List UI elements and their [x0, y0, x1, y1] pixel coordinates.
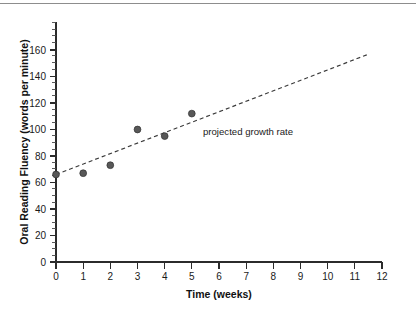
y-tick-label-120: 120 [29, 98, 46, 109]
scatter-plot: 0 20 40 60 80 100 120 140 160 0 1 [0, 0, 416, 313]
data-point [161, 133, 168, 140]
y-axis-minor-ticks [52, 23, 57, 256]
y-tick-label-0: 0 [40, 257, 46, 268]
data-point [80, 170, 87, 177]
data-point [188, 110, 195, 117]
axes-group [56, 22, 382, 262]
x-tick-label-5: 5 [189, 271, 195, 282]
y-axis-title: Oral Reading Fluency (words per minute) [18, 39, 30, 244]
x-tick-label-1: 1 [80, 271, 86, 282]
data-point [134, 126, 141, 133]
x-tick-label-7: 7 [243, 271, 249, 282]
x-tick-label-12: 12 [376, 271, 388, 282]
x-tick-label-4: 4 [162, 271, 168, 282]
y-tick-label-100: 100 [29, 124, 46, 135]
x-tick-label-3: 3 [135, 271, 141, 282]
x-tick-label-8: 8 [271, 271, 277, 282]
x-tick-label-10: 10 [322, 271, 334, 282]
y-tick-label-20: 20 [35, 230, 47, 241]
data-point [107, 162, 114, 169]
chart-figure: 0 20 40 60 80 100 120 140 160 0 1 [0, 0, 416, 313]
y-tick-label-40: 40 [35, 204, 47, 215]
x-tick-label-6: 6 [216, 271, 222, 282]
data-point [53, 171, 60, 178]
y-tick-label-160: 160 [29, 45, 46, 56]
y-tick-label-140: 140 [29, 71, 46, 82]
y-tick-label-80: 80 [35, 151, 47, 162]
data-points-group [53, 110, 196, 178]
projected-growth-rate-annotation: projected growth rate [203, 126, 293, 137]
x-axis-title: Time (weeks) [186, 288, 252, 300]
x-tick-label-9: 9 [298, 271, 304, 282]
projected-growth-line [56, 54, 369, 175]
x-tick-label-0: 0 [53, 271, 59, 282]
x-tick-label-11: 11 [350, 271, 361, 282]
y-tick-label-60: 60 [35, 177, 47, 188]
x-axis-ticks: 0 1 2 3 4 5 6 7 8 9 10 11 12 [53, 262, 388, 282]
y-axis-ticks: 0 20 40 60 80 100 120 140 160 [29, 45, 56, 268]
x-tick-label-2: 2 [108, 271, 114, 282]
